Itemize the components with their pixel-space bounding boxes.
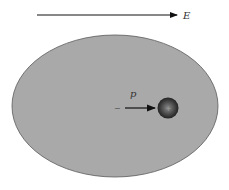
positive-charge: +: [158, 98, 179, 119]
dipole-label: p: [130, 88, 137, 99]
field-label: E: [182, 10, 191, 21]
dipole-diagram: E p − +: [0, 0, 229, 190]
electric-field-arrow: E: [37, 10, 191, 21]
positive-sign: +: [166, 105, 172, 113]
negative-sign: −: [114, 104, 121, 113]
